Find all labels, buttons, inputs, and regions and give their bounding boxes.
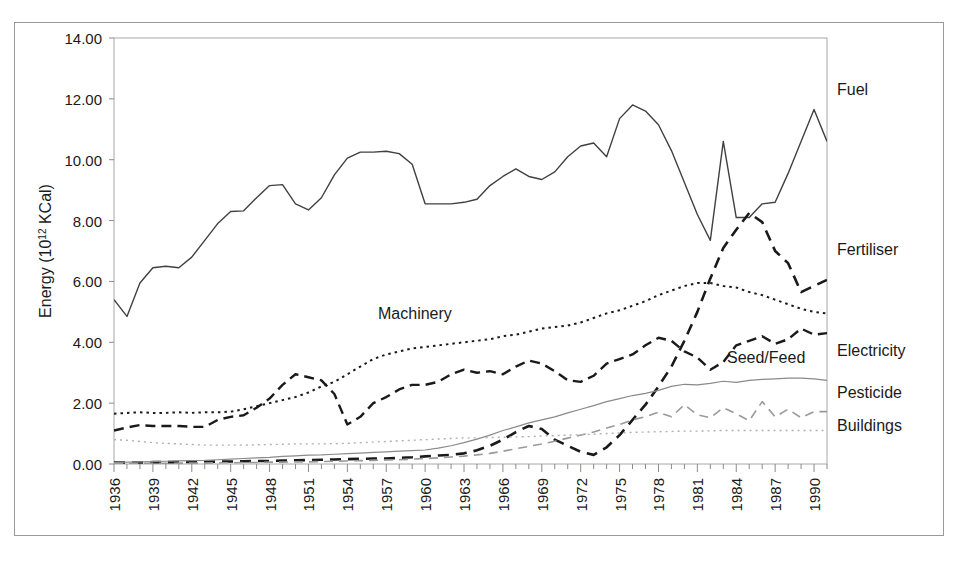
svg-text:Energy (1012 KCal): Energy (1012 KCal) [37,184,54,318]
x-axis-tick-label: 1951 [300,478,317,511]
x-axis-tick-label: 1960 [417,478,434,511]
x-axis-tick-label: 1978 [650,478,667,511]
y-axis-tick-label: 2.00 [73,395,102,412]
series-label-fuel: Fuel [837,81,868,98]
x-axis-tick-label: 1942 [184,478,201,511]
x-axis-tick-label: 1984 [728,478,745,511]
x-axis-tick-label: 1981 [689,478,706,511]
x-axis-tick-label: 1972 [573,478,590,511]
x-axis-tick-label: 1987 [767,478,784,511]
y-axis-tick-label: 0.00 [73,456,102,473]
y-axis-tick-label: 8.00 [73,213,102,230]
series-label-seed-feed: Seed/Feed [727,349,805,366]
y-axis-tick-label: 12.00 [64,91,102,108]
x-axis-tick-label: 1957 [378,478,395,511]
x-axis-tick-label: 1963 [456,478,473,511]
y-axis-tick-label: 14.00 [64,30,102,47]
series-label-fertiliser: Fertiliser [837,241,899,258]
chart-root: 14.0012.0010.008.006.004.002.000.0019361… [15,23,943,535]
x-axis-tick-label: 1948 [262,478,279,511]
y-axis-tick-label: 10.00 [64,152,102,169]
x-axis-tick-label: 1975 [612,478,629,511]
x-axis-tick-label: 1990 [806,478,823,511]
y-axis-title: Energy (1012 KCal) [37,184,54,318]
y-axis-tick-label: 4.00 [73,334,102,351]
series-label-buildings: Buildings [837,417,902,434]
series-label-machinery: Machinery [378,305,452,322]
y-axis-tick-label: 6.00 [73,273,102,290]
x-axis-tick-label: 1954 [339,478,356,511]
figure-outer-frame: 14.0012.0010.008.006.004.002.000.0019361… [14,22,944,536]
x-axis-tick-label: 1936 [106,478,123,511]
figure-page: 14.0012.0010.008.006.004.002.000.0019361… [0,0,965,565]
x-axis-tick-label: 1939 [145,478,162,511]
series-label-electricity: Electricity [837,342,905,359]
line-chart: 14.0012.0010.008.006.004.002.000.0019361… [15,23,943,535]
x-axis-tick-label: 1969 [534,478,551,511]
x-axis-tick-label: 1966 [495,478,512,511]
plot-area-border [114,38,827,464]
series-label-pesticide: Pesticide [837,384,902,401]
x-axis-tick-label: 1945 [223,478,240,511]
